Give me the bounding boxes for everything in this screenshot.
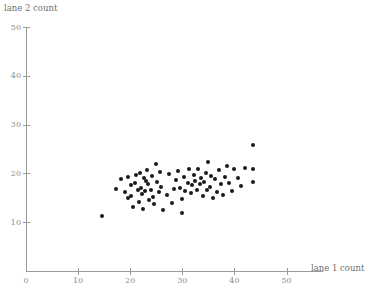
scatter-point <box>129 194 133 198</box>
scatter-point <box>147 198 151 202</box>
scatter-point <box>213 177 217 181</box>
scatter-point <box>167 172 171 176</box>
scatter-point <box>140 192 144 196</box>
scatter-point <box>196 167 200 171</box>
scatter-point <box>146 182 150 186</box>
scatter-point <box>176 169 180 173</box>
scatter-point <box>251 167 255 171</box>
data-points-layer <box>0 0 371 301</box>
scatter-point <box>157 190 161 194</box>
scatter-point <box>154 162 158 166</box>
scatter-point <box>161 208 165 212</box>
scatter-point <box>145 168 149 172</box>
scatter-point <box>182 175 186 179</box>
scatter-point <box>190 183 194 187</box>
scatter-point <box>198 182 202 186</box>
scatter-point <box>150 174 154 178</box>
scatter-point <box>211 196 215 200</box>
scatter-point <box>192 173 196 177</box>
scatter-point <box>129 183 133 187</box>
scatter-point <box>236 176 240 180</box>
scatter-point <box>217 168 221 172</box>
scatter-point <box>123 190 127 194</box>
scatter-point <box>183 189 187 193</box>
scatter-point <box>189 191 193 195</box>
scatter-point <box>143 189 147 193</box>
scatter-point <box>227 181 231 185</box>
scatter-point <box>126 175 130 179</box>
scatter-point <box>201 194 205 198</box>
scatter-point <box>251 180 255 184</box>
scatter-point <box>251 143 255 147</box>
scatter-point <box>223 175 227 179</box>
scatter-plot-figure: lane 2 count lane 1 count 10203040500102… <box>0 0 371 301</box>
scatter-point <box>174 178 178 182</box>
scatter-point <box>141 207 145 211</box>
scatter-point <box>239 184 243 188</box>
scatter-point <box>137 200 141 204</box>
scatter-point <box>215 190 219 194</box>
scatter-point <box>206 160 210 164</box>
scatter-point <box>152 202 156 206</box>
scatter-point <box>100 214 104 218</box>
scatter-point <box>243 166 247 170</box>
scatter-point <box>208 185 212 189</box>
scatter-point <box>119 177 123 181</box>
scatter-point <box>180 211 184 215</box>
scatter-point <box>187 167 191 171</box>
scatter-point <box>159 185 163 189</box>
scatter-point <box>139 186 143 190</box>
scatter-point <box>158 170 162 174</box>
scatter-point <box>178 186 182 190</box>
scatter-point <box>232 167 236 171</box>
scatter-point <box>138 171 142 175</box>
scatter-point <box>155 180 159 184</box>
scatter-point <box>165 193 169 197</box>
scatter-point <box>202 180 206 184</box>
scatter-point <box>172 187 176 191</box>
scatter-point <box>149 188 153 192</box>
scatter-point <box>230 189 234 193</box>
scatter-point <box>151 195 155 199</box>
scatter-point <box>114 187 118 191</box>
scatter-point <box>195 188 199 192</box>
scatter-point <box>225 164 229 168</box>
scatter-point <box>219 182 223 186</box>
scatter-point <box>131 205 135 209</box>
scatter-point <box>133 181 137 185</box>
scatter-point <box>186 181 190 185</box>
scatter-point <box>180 197 184 201</box>
scatter-point <box>204 171 208 175</box>
scatter-point <box>193 179 197 183</box>
scatter-point <box>221 193 225 197</box>
scatter-point <box>170 201 174 205</box>
